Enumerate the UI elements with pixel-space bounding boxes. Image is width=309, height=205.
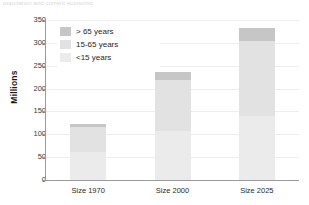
bar-segment[interactable] [239,28,275,41]
bar-segment[interactable] [70,127,106,151]
bar-segment[interactable] [70,152,106,180]
y-axis-line [45,19,46,181]
y-tick-mark [42,43,45,44]
y-tick-mark [42,89,45,90]
legend-swatch-icon [60,53,71,62]
legend-item[interactable]: 15-65 years [60,38,156,51]
x-axis-line [45,180,299,181]
bar-segment[interactable] [239,116,275,180]
y-tick-mark [42,20,45,21]
y-axis-title: Millions [9,57,19,117]
y-tick-mark [42,134,45,135]
bar-group[interactable] [155,72,191,180]
x-tick-label: Size 2000 [131,186,215,195]
x-tick-label: Size 1970 [46,186,130,195]
chart-legend: > 65 years15-65 years<15 years [57,22,160,67]
bar-group[interactable] [239,28,275,180]
stacked-bar-chart: population and current economic 05010015… [0,0,309,205]
legend-label: 15-65 years [76,40,118,49]
legend-swatch-icon [60,40,71,49]
bar-segment[interactable] [155,80,191,131]
y-tick-mark [42,111,45,112]
legend-label: <15 years [76,53,111,62]
bar-segment[interactable] [155,131,191,180]
bar-segment[interactable] [155,72,191,80]
y-tick-mark [42,66,45,67]
x-tick-label: Size 2025 [215,186,299,195]
bar-group[interactable] [70,124,106,180]
legend-label: > 65 years [76,27,114,36]
gridline [46,20,299,21]
legend-swatch-icon [60,27,71,36]
legend-item[interactable]: > 65 years [60,25,156,38]
clipped-caption: population and current economic [3,0,303,7]
bar-segment[interactable] [239,41,275,116]
y-tick-mark [42,180,45,181]
legend-item[interactable]: <15 years [60,51,156,64]
y-tick-mark [42,157,45,158]
